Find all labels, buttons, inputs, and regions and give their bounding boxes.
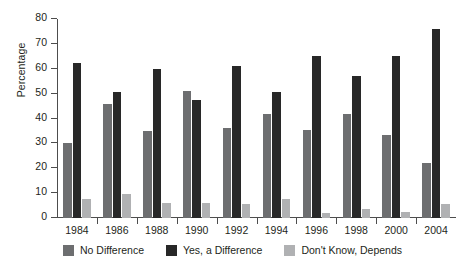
bar: [63, 143, 72, 218]
y-axis-tick-label: 80: [35, 11, 47, 23]
y-axis-tick: 70: [51, 43, 57, 44]
legend-label: Yes, a Difference: [183, 244, 262, 256]
bar: [272, 92, 281, 218]
x-axis-label: 2004: [416, 224, 456, 236]
bar: [303, 130, 312, 218]
bar: [401, 212, 410, 218]
legend-item[interactable]: Don't Know, Depends: [284, 244, 402, 256]
bar: [183, 91, 192, 218]
bar: [242, 204, 251, 218]
x-axis-label: 2000: [376, 224, 416, 236]
bar: [343, 114, 352, 218]
bar: [232, 66, 241, 218]
bar: [432, 29, 441, 218]
bar: [312, 56, 321, 218]
y-axis-tick-label: 60: [35, 61, 47, 73]
y-axis-tick-label: 40: [35, 111, 47, 123]
y-axis-tick-label: 20: [35, 160, 47, 172]
y-axis-tick: 10: [51, 192, 57, 193]
bar-group: [103, 19, 131, 218]
chart-legend: No DifferenceYes, a DifferenceDon't Know…: [0, 244, 465, 256]
y-axis-tick: 20: [51, 167, 57, 168]
x-axis-label: 1990: [177, 224, 217, 236]
bar: [282, 199, 291, 218]
y-axis-tick: 30: [51, 142, 57, 143]
x-axis-label: 1994: [257, 224, 297, 236]
bar: [162, 203, 171, 218]
plot-area: 01020304050607080: [57, 19, 456, 218]
legend-swatch-icon: [284, 245, 295, 256]
bar: [263, 114, 272, 218]
y-axis-tick: 40: [51, 118, 57, 119]
bar-group: [422, 19, 450, 218]
legend-item[interactable]: Yes, a Difference: [166, 244, 262, 256]
bar: [322, 213, 331, 218]
legend-swatch-icon: [63, 245, 74, 256]
bar: [82, 199, 91, 218]
y-axis-tick-label: 70: [35, 36, 47, 48]
legend-label: No Difference: [80, 244, 144, 256]
x-axis-label: 1996: [296, 224, 336, 236]
bar-group: [343, 19, 371, 218]
y-axis-tick: 60: [51, 68, 57, 69]
bar: [382, 135, 391, 218]
legend-item[interactable]: No Difference: [63, 244, 144, 256]
y-axis-tick: 0: [51, 217, 57, 218]
x-axis-label: 1992: [217, 224, 257, 236]
bar: [143, 131, 152, 218]
x-axis-label: 1984: [57, 224, 97, 236]
y-axis-tick-label: 30: [35, 135, 47, 147]
bar-group: [303, 19, 331, 218]
y-axis-tick: 50: [51, 93, 57, 94]
bar: [392, 56, 401, 218]
bar: [113, 92, 122, 218]
legend-swatch-icon: [166, 245, 177, 256]
x-axis-label: 1986: [97, 224, 137, 236]
x-axis-label: 1998: [336, 224, 376, 236]
bar-chart: Percentage 01020304050607080 19841986198…: [0, 0, 465, 268]
y-axis-tick-label: 0: [41, 210, 47, 222]
bar: [441, 204, 450, 218]
bar: [122, 194, 131, 218]
x-axis-label: 1988: [137, 224, 177, 236]
y-axis-line: [57, 19, 58, 218]
bar: [192, 100, 201, 218]
bar: [73, 63, 82, 218]
bar: [153, 69, 162, 218]
bar: [202, 203, 211, 218]
bar-group: [223, 19, 251, 218]
y-axis-tick: 80: [51, 18, 57, 19]
y-axis-title: Percentage: [15, 15, 27, 125]
y-axis-tick-label: 10: [35, 185, 47, 197]
y-axis-tick-label: 50: [35, 86, 47, 98]
bar: [223, 128, 232, 218]
legend-label: Don't Know, Depends: [301, 244, 402, 256]
bar: [103, 104, 112, 218]
bar: [352, 76, 361, 218]
bar: [362, 209, 371, 218]
bar-group: [143, 19, 171, 218]
bar-group: [382, 19, 410, 218]
bar-group: [263, 19, 291, 218]
bar: [422, 163, 431, 218]
bar-group: [183, 19, 211, 218]
bar-group: [63, 19, 91, 218]
